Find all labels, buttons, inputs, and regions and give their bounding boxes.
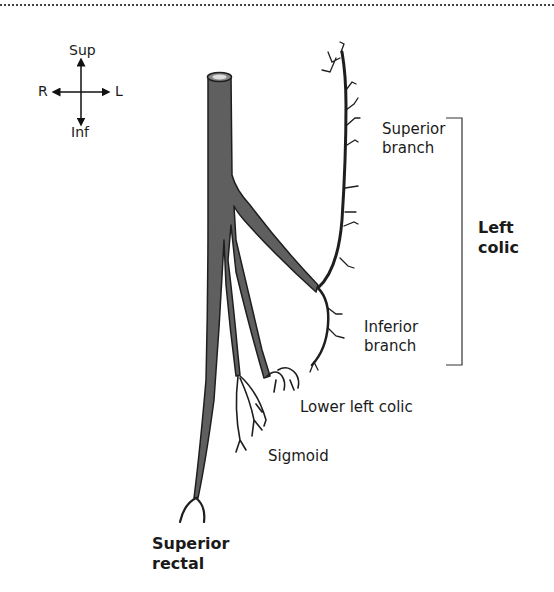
label-sigmoid: Sigmoid: [268, 447, 329, 466]
orientation-right-label: R: [38, 83, 48, 99]
label-lower-left-colic: Lower left colic: [300, 398, 413, 417]
label-superior-rectal: Superior rectal: [152, 534, 229, 574]
vessel-trunk: [194, 76, 318, 498]
label-superior-branch: Superior branch: [382, 120, 445, 158]
left-colic-bracket: [446, 118, 462, 365]
orientation-left-label: L: [115, 83, 123, 99]
left-colic-inferior-branch: [310, 288, 344, 372]
superior-rectal-fork: [180, 498, 204, 522]
orientation-compass-icon: [56, 62, 106, 122]
orientation-sup-label: Sup: [69, 42, 96, 58]
orientation-inf-label: Inf: [71, 124, 89, 140]
sigmoid-branches: [236, 376, 266, 452]
left-colic-superior-branch: [318, 42, 360, 288]
inferior-mesenteric-artery-diagram: [0, 0, 554, 592]
label-left-colic: Left colic: [478, 218, 519, 258]
lower-left-colic-branches: [267, 368, 299, 392]
label-inferior-branch: Inferior branch: [364, 318, 418, 356]
